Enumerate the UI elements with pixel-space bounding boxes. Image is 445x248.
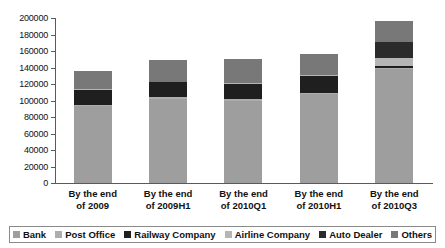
x-category-label-line: of 2010Q1	[206, 200, 281, 212]
y-tick-label: 100000	[19, 96, 48, 105]
legend-label: Airline Company	[235, 230, 311, 240]
y-axis-tick	[51, 101, 55, 102]
bar-segment	[300, 94, 338, 183]
y-axis-tick	[51, 84, 55, 85]
legend-label: Others	[401, 230, 432, 240]
y-tick-label: 140000	[19, 63, 48, 72]
y-axis-tick	[51, 18, 55, 19]
x-category-label: By the endof 2009H1	[130, 188, 205, 212]
x-category-label-line: of 2009H1	[130, 200, 205, 212]
x-category-label-line: of 2010Q3	[357, 200, 432, 212]
bar-group	[281, 18, 356, 183]
stacked-bar	[375, 21, 413, 183]
stacked-bar-chart: 0200004000060000800001000001200001400001…	[0, 0, 445, 248]
y-axis-tick	[51, 134, 55, 135]
legend-label: Bank	[23, 230, 46, 240]
x-category-label-line: By the end	[206, 188, 281, 200]
y-tick-label: 20000	[24, 162, 48, 171]
bar-group	[130, 18, 205, 183]
y-tick-label: 40000	[24, 146, 48, 155]
stacked-bar	[224, 59, 262, 183]
x-category-label-line: By the end	[130, 188, 205, 200]
x-category-label-line: By the end	[357, 188, 432, 200]
legend-label: Auto Dealer	[329, 230, 382, 240]
bar-segment	[149, 60, 187, 81]
legend-swatch-icon	[225, 231, 232, 238]
legend-swatch-icon	[13, 231, 20, 238]
y-axis-tick	[51, 51, 55, 52]
y-axis-tick	[51, 183, 55, 184]
bar-segment	[74, 71, 112, 89]
bar-segment	[149, 99, 187, 183]
bar-segment	[300, 76, 338, 93]
y-tick-label: 80000	[24, 113, 48, 122]
legend-item[interactable]: Railway Company	[124, 230, 215, 240]
plot-area	[55, 18, 432, 183]
y-axis-tick	[51, 117, 55, 118]
bar-segment	[375, 69, 413, 183]
bar-segment	[149, 82, 187, 97]
stacked-bar	[300, 54, 338, 183]
bar-segment	[375, 21, 413, 42]
legend-swatch-icon	[55, 231, 62, 238]
bar-segment	[74, 106, 112, 183]
stacked-bar	[74, 71, 112, 183]
y-tick-label: 0	[43, 179, 48, 188]
y-axis-tick	[51, 68, 55, 69]
legend-item[interactable]: Airline Company	[225, 230, 311, 240]
y-axis-tick	[51, 35, 55, 36]
bar-segment	[224, 59, 262, 83]
x-category-label-line: By the end	[281, 188, 356, 200]
y-tick-label: 60000	[24, 129, 48, 138]
y-tick-label: 120000	[19, 80, 48, 89]
chart-legend: BankPost OfficeRailway CompanyAirline Co…	[9, 226, 436, 243]
x-category-label: By the endof 2010Q1	[206, 188, 281, 212]
legend-swatch-icon	[319, 231, 326, 238]
y-tick-label: 200000	[19, 14, 48, 23]
bar-segment	[375, 42, 413, 59]
legend-item[interactable]: Post Office	[55, 230, 115, 240]
x-category-label: By the endof 2010Q3	[357, 188, 432, 212]
bar-segment	[224, 101, 262, 183]
bar-segment	[375, 58, 413, 65]
bar-segment	[74, 90, 112, 105]
bar-group	[357, 18, 432, 183]
x-category-label-line: By the end	[55, 188, 130, 200]
legend-label: Railway Company	[134, 230, 215, 240]
legend-item[interactable]: Bank	[13, 230, 46, 240]
bar-segment	[300, 54, 338, 75]
legend-swatch-icon	[391, 231, 398, 238]
x-category-label: By the endof 2009	[55, 188, 130, 212]
x-axis-category-labels: By the endof 2009By the endof 2009H1By t…	[55, 188, 432, 222]
y-tick-label: 160000	[19, 47, 48, 56]
bar-group	[206, 18, 281, 183]
legend-swatch-icon	[124, 231, 131, 238]
bar-segment	[224, 84, 262, 99]
y-tick-label: 180000	[19, 30, 48, 39]
x-category-label: By the endof 2010H1	[281, 188, 356, 212]
bar-group	[55, 18, 130, 183]
legend-label: Post Office	[65, 230, 115, 240]
x-category-label-line: of 2009	[55, 200, 130, 212]
legend-item[interactable]: Others	[391, 230, 432, 240]
x-category-label-line: of 2010H1	[281, 200, 356, 212]
legend-item[interactable]: Auto Dealer	[319, 230, 382, 240]
y-axis-tick	[51, 167, 55, 168]
y-axis-tick-labels: 0200004000060000800001000001200001400001…	[0, 18, 48, 184]
stacked-bar	[149, 60, 187, 183]
x-axis-line	[55, 183, 433, 184]
y-axis-tick	[51, 150, 55, 151]
